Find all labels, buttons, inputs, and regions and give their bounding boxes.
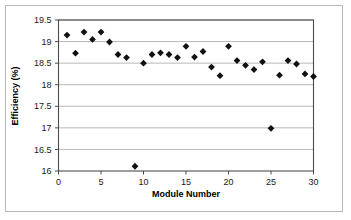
data-point — [132, 163, 139, 170]
data-point — [174, 54, 181, 61]
y-tick-label-5: 18.5 — [34, 58, 52, 68]
data-point — [310, 73, 317, 80]
y-tick-label-1: 16.5 — [34, 145, 52, 155]
gridlines — [59, 20, 314, 149]
data-point — [149, 51, 156, 58]
data-point — [98, 29, 105, 36]
data-point — [276, 72, 283, 79]
data-point — [268, 125, 275, 132]
data-point — [81, 29, 88, 36]
data-point — [225, 43, 232, 50]
y-axis-title: Efficiency (%) — [10, 66, 20, 125]
data-point — [217, 72, 224, 79]
data-point — [200, 48, 207, 55]
data-point — [208, 64, 215, 71]
x-tick-label-5: 25 — [266, 177, 276, 187]
data-point-markers — [64, 29, 317, 170]
tick-marks — [55, 20, 314, 175]
y-tick-label-3: 17.5 — [34, 101, 52, 111]
x-axis-title: Module Number — [152, 189, 220, 199]
data-point — [72, 50, 79, 57]
data-point — [166, 51, 173, 58]
x-tick-label-1: 5 — [98, 177, 103, 187]
y-tick-label-7: 19.5 — [34, 15, 52, 25]
data-point — [157, 49, 164, 56]
data-point — [106, 39, 113, 46]
data-point — [183, 43, 190, 50]
chart-plot-container: 1616.51717.51818.51919.5 051015202530 Mo… — [0, 0, 351, 220]
x-tick-label-2: 10 — [138, 177, 148, 187]
y-tick-label-6: 19 — [41, 37, 51, 47]
chart-figure: 1616.51717.51818.51919.5 051015202530 Mo… — [0, 0, 351, 220]
x-tick-label-6: 30 — [308, 177, 318, 187]
scatter-plot-svg: 1616.51717.51818.51919.5 051015202530 Mo… — [0, 0, 351, 220]
data-point — [259, 58, 266, 65]
plot-frame — [59, 20, 314, 171]
x-tick-label-4: 20 — [223, 177, 233, 187]
x-tick-label-3: 15 — [181, 177, 191, 187]
data-point — [302, 71, 309, 78]
data-point — [140, 60, 147, 67]
y-tick-label-2: 17 — [41, 123, 51, 133]
data-point — [123, 54, 130, 61]
data-point — [251, 66, 258, 73]
data-point — [293, 61, 300, 68]
y-tick-label-0: 16 — [41, 166, 51, 176]
y-tick-label-4: 18 — [41, 80, 51, 90]
data-point — [115, 51, 122, 58]
x-axis-tick-labels: 051015202530 — [56, 177, 319, 187]
plot-frame-rect — [59, 20, 314, 171]
x-tick-label-0: 0 — [56, 177, 61, 187]
data-point — [64, 32, 71, 39]
y-axis-tick-labels: 1616.51717.51818.51919.5 — [34, 15, 52, 176]
data-point — [191, 54, 198, 61]
